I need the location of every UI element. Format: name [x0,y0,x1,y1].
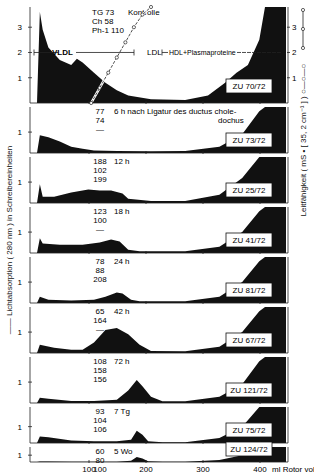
lipid-value: 77 [96,107,105,116]
y-tick-label: 3 [18,23,23,32]
sample-id: ZU 73/72 [233,136,266,145]
sample-id: ZU 75/72 [233,426,266,435]
lipid-value: 80 [96,456,105,465]
lipid-value: 104 [93,416,107,425]
lipid-value: 156 [93,375,107,384]
sample-id: ZU 41/72 [233,236,266,245]
lipid-value: — [96,125,104,134]
x-tick-label: 400 [253,465,267,474]
lipid-value: 74 [96,116,105,125]
lipid-value: 164 [93,316,107,325]
condition-label: 24 h [114,257,130,266]
y-tick-label: 1 [18,451,23,460]
conductivity-legend-point [301,27,304,30]
conductivity-point [141,13,144,16]
right-y-tick-label: 3 [292,23,297,32]
lipid-value: 65 [96,307,105,316]
lipid-value: TG 73 [92,8,115,17]
panel-zu-67-72: 165164—42 hZU 67/72 [18,307,288,354]
lipid-value: 123 [93,207,107,216]
x-tick-label: 300 [196,465,210,474]
lipid-value: 60 [96,447,105,456]
lipid-value: — [96,225,104,234]
lipid-value: 102 [93,166,107,175]
region-label-hdl: HDL+Plasmaproteine [169,49,236,57]
sample-id: ZU 70/72 [233,82,266,91]
lipid-value: 78 [96,257,105,266]
lipid-value: 208 [93,275,107,284]
condition-label-cont: dochus [218,116,244,125]
figure-canvas: 123123TG 73Ch 58Ph-1 110KontrolleZU 70/7… [0,0,314,476]
y-tick-label: 1 [18,178,23,187]
y-axis-label-right-text: Leitfähigkeit ( mS • [ 35, 2 cm⁻¹ ] ) ○—… [299,64,308,217]
lipid-value: Ph-1 110 [92,26,124,35]
condition-label: 5 Wo [114,447,133,456]
lipid-value: — [96,325,104,334]
conductivity-point [149,5,152,8]
panel-zu-25-72: 118810219912 hZU 25/72 [18,157,288,204]
x-axis-label: ml Rotor vol. [272,465,314,474]
y-tick-label: 1 [18,128,23,137]
lipid-value: 199 [93,175,107,184]
y-axis-label-right: Leitfähigkeit ( mS • [ 35, 2 cm⁻¹ ] ) ○—… [296,40,310,240]
sample-id: ZU 81/72 [233,286,266,295]
conductivity-point [115,56,118,59]
conductivity-legend-point [301,8,304,11]
region-label-vldl: VLDL [52,48,73,57]
panel-zu-73-72: 17774—6 h nach Ligatur des ductus chole-… [18,107,288,154]
panel-zu-81-72: 1788820824 hZU 81/72 [18,257,288,304]
y-tick-label: 1 [18,228,23,237]
lipid-value: 106 [93,425,107,434]
condition-label: 72 h [114,357,130,366]
sample-id: ZU 121/72 [230,386,268,395]
conductivity-point [98,86,101,89]
condition-label: 6 h nach Ligatur des ductus chole- [114,107,237,116]
y-tick-label: 1 [18,74,23,83]
panel-zu-75-72: 1931041067 TgZU 75/72 [18,407,288,444]
condition-label: 42 h [114,307,130,316]
conductivity-point [132,26,135,29]
y-axis-label-left: —— Lichtabsorption ( 280 nm ) in Schreib… [2,90,16,390]
conductivity-point [107,71,110,74]
condition-label: 18 h [114,207,130,216]
lipid-value: Ch 58 [92,17,114,26]
lipid-value: 93 [96,407,105,416]
y-tick-label: 1 [18,278,23,287]
x-tick-label: 100 [82,465,96,474]
sample-id: ZU 124/72 [230,445,268,454]
y-tick-label: 2 [18,48,23,57]
panel-zu-41-72: 1123100—18 hZU 41/72 [18,207,288,254]
panel-zu-121-72: 110815815672 hZU 121/72 [18,357,288,404]
y-tick-label: 1 [18,423,23,432]
region-label-ldl: LDL [147,48,162,57]
lipid-value: 88 [96,266,105,275]
conductivity-point [90,101,93,104]
lipid-value: 100 [93,216,107,225]
lipid-value: 108 [93,357,107,366]
conductivity-point [124,41,127,44]
sample-id: ZU 67/72 [233,336,266,345]
panel-zu-70-72: 123123TG 73Ch 58Ph-1 110KontrolleZU 70/7… [18,5,305,104]
y-axis-label-left-text: —— Lichtabsorption ( 280 nm ) in Schreib… [5,146,14,335]
condition-label: 12 h [114,157,130,166]
x-tick-label: 200 [139,465,153,474]
lipid-value: 158 [93,366,107,375]
sample-id: ZU 25/72 [233,186,266,195]
condition-label: 7 Tg [114,407,130,416]
y-tick-label: 1 [18,328,23,337]
lipid-value: 188 [93,157,107,166]
y-tick-label: 1 [18,378,23,387]
panel-zu-124-72: 160801005 WoZU 124/72 [18,442,288,474]
